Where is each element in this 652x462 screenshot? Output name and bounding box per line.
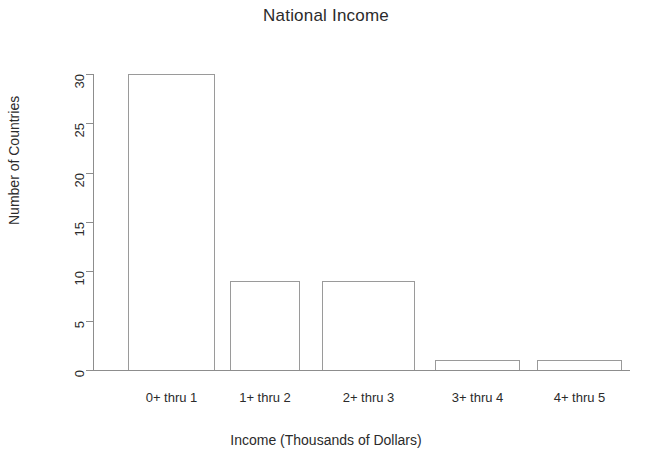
y-axis-tick-label: 15 — [56, 215, 80, 229]
bar — [537, 360, 622, 370]
y-axis-tick-label-text: 0 — [73, 370, 87, 377]
y-axis-tick-label: 5 — [56, 314, 80, 328]
bar — [322, 281, 415, 370]
y-axis-tick-label-text: 5 — [73, 321, 87, 328]
y-axis-tick-label: 30 — [56, 67, 80, 81]
x-axis-tick-label: 4+ thru 5 — [512, 390, 647, 405]
bar — [230, 281, 300, 370]
x-axis-line — [93, 370, 630, 371]
y-axis-title: Number of Countries — [6, 96, 22, 225]
plot-area: 051015202530 0+ thru 11+ thru 22+ thru 3… — [0, 0, 652, 462]
y-axis-tick-label-text: 15 — [73, 222, 87, 236]
y-axis-tick-label: 0 — [56, 363, 80, 377]
y-axis-tick-label-text: 20 — [73, 173, 87, 187]
y-axis-line — [93, 74, 94, 371]
y-axis-tick-label-text: 25 — [73, 123, 87, 137]
bar — [128, 74, 215, 370]
x-axis-title: Income (Thousands of Dollars) — [0, 432, 652, 448]
y-axis-tick-label: 25 — [56, 116, 80, 130]
y-axis-tick-label: 10 — [56, 264, 80, 278]
y-axis-tick-label-text: 30 — [73, 74, 87, 88]
y-axis-tick-label: 20 — [56, 166, 80, 180]
chart-figure: National Income 051015202530 0+ thru 11+… — [0, 0, 652, 462]
y-axis-tick-label-text: 10 — [73, 271, 87, 285]
bar — [435, 360, 520, 370]
